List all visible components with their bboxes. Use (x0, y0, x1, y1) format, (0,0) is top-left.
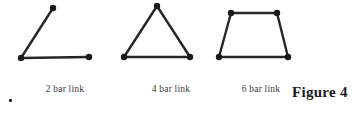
joint-dot (18, 55, 24, 61)
joint-dot (216, 54, 222, 60)
diagram-2-bar-link (18, 5, 92, 61)
stray-dot-mark (9, 99, 12, 102)
joint-dot (86, 54, 92, 60)
six-bar-linkage-bars (219, 13, 288, 57)
diagram-6-bar-link (216, 10, 291, 60)
joint-dot (50, 5, 56, 11)
joint-dot (285, 54, 291, 60)
joint-dot (228, 10, 234, 16)
diagram-4-bar-link (121, 3, 193, 60)
joint-dot (154, 3, 160, 9)
two-bar-linkage-bars (21, 8, 89, 58)
joint-dot (274, 10, 280, 16)
figure-number-label: Figure 4 (292, 84, 348, 101)
joint-dot (121, 54, 127, 60)
figure-container: 2 bar link 4 bar link 6 bar link Figure … (0, 0, 364, 115)
joint-dot (187, 54, 193, 60)
four-bar-linkage-bars (124, 6, 190, 57)
